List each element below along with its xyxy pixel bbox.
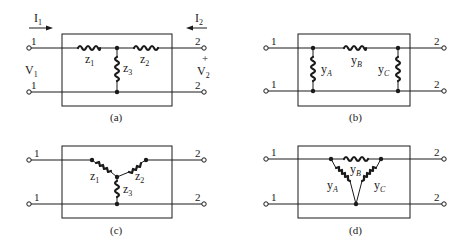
- port-label: 2: [195, 191, 201, 203]
- port-label: 1: [34, 191, 40, 203]
- label-v1: V1: [25, 63, 38, 79]
- terminal-2-top: [442, 46, 446, 50]
- port-label: 1: [271, 146, 277, 158]
- label-z2: z2: [135, 169, 144, 185]
- terminal-1-top: [27, 158, 31, 162]
- wire: [350, 181, 356, 204]
- port-label: 2: [434, 146, 440, 158]
- caption-a: (a): [110, 111, 123, 124]
- label-z1: z1: [90, 169, 99, 185]
- port-label: 2: [195, 79, 201, 91]
- panel-b: 1 1 2 2 yA yB yC (b): [264, 34, 446, 124]
- terminal-1-top: [264, 46, 268, 50]
- terminal-2-bottom: [202, 202, 206, 206]
- two-port-network-diagram: I1 I2 1 1 2 2 z1 z2 z3: [0, 0, 473, 247]
- port-label: 1: [31, 79, 37, 91]
- impedance-z3: [115, 57, 119, 81]
- terminal-2-top: [202, 158, 206, 162]
- wire: [356, 181, 362, 204]
- panel-a: I1 I2 1 1 2 2 z1 z2 z3: [25, 11, 210, 124]
- admittance-ya: [336, 167, 350, 181]
- port-label: 1: [34, 147, 40, 159]
- label-z2: z2: [140, 52, 149, 68]
- port-label: 2: [195, 147, 201, 159]
- node: [144, 158, 148, 162]
- label-ya: yA: [321, 62, 332, 78]
- terminal-1-top: [264, 157, 268, 161]
- port-label: 2: [195, 35, 201, 47]
- node: [115, 202, 119, 206]
- current-arrow-i2: [186, 26, 207, 31]
- label-ya: yA: [327, 178, 338, 194]
- terminal-1-bottom: [264, 202, 268, 206]
- label-z3: z3: [123, 61, 132, 77]
- terminal-2-top: [202, 46, 206, 50]
- terminal-2-bottom: [442, 202, 446, 206]
- label-z3: z3: [123, 182, 132, 198]
- label-i1: I1: [34, 11, 42, 27]
- label-z1: z1: [85, 52, 94, 68]
- node: [115, 46, 119, 50]
- panel-c: 1 1 2 2 z1 z2 z3 (c): [27, 146, 206, 237]
- admittance-ya: [311, 57, 315, 81]
- node: [115, 175, 119, 179]
- panel-d: 1 1 2 2 yA yB yC (d): [264, 146, 446, 237]
- terminal-2-top: [442, 157, 446, 161]
- label-yb: yB: [351, 53, 362, 69]
- port-label: 2: [434, 78, 440, 90]
- caption-d: (d): [349, 224, 362, 237]
- node: [396, 46, 400, 50]
- node: [115, 90, 119, 94]
- admittance-yb: [344, 157, 368, 161]
- terminal-1-bottom: [264, 89, 268, 93]
- node: [396, 89, 400, 93]
- port-label: 2: [434, 191, 440, 203]
- caption-b: (b): [349, 111, 362, 124]
- node: [90, 158, 94, 162]
- impedance-z1: [96, 162, 111, 172]
- admittance-yc: [396, 57, 400, 81]
- impedance-z2: [134, 46, 158, 50]
- admittance-yb: [344, 46, 366, 50]
- terminal-1-bottom: [27, 202, 31, 206]
- port-label: 1: [31, 35, 37, 47]
- arrow-right-icon: [46, 26, 53, 31]
- impedance-z3: [115, 181, 119, 197]
- impedance-z1: [78, 46, 100, 50]
- node: [354, 202, 358, 206]
- node: [379, 157, 383, 161]
- label-v2: V2: [197, 64, 210, 80]
- port-label: 2: [434, 35, 440, 47]
- arrow-left-icon: [186, 26, 193, 31]
- node: [329, 157, 333, 161]
- label-yb: yB: [350, 162, 361, 178]
- node: [311, 46, 315, 50]
- label-yc: yC: [374, 178, 386, 194]
- label-i2: I2: [195, 11, 203, 27]
- node: [311, 89, 315, 93]
- polarity-plus: +: [202, 52, 208, 64]
- port-label: 1: [271, 78, 277, 90]
- terminal-2-bottom: [202, 90, 206, 94]
- terminal-2-bottom: [442, 89, 446, 93]
- port-label: 1: [271, 191, 277, 203]
- port-label: 1: [271, 35, 277, 47]
- label-yc: yC: [378, 62, 390, 78]
- caption-c: (c): [110, 224, 123, 237]
